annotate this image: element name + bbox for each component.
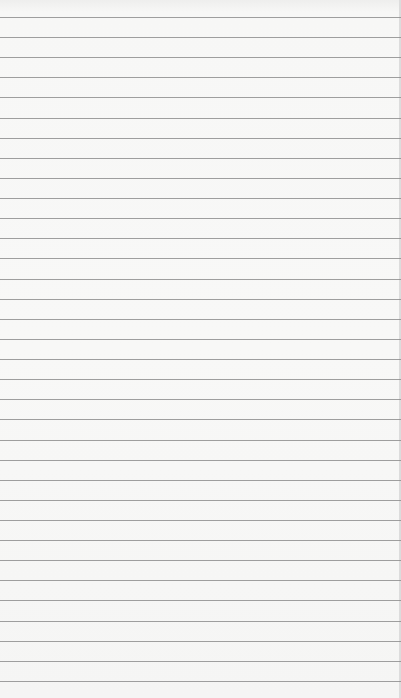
- ruled-line: [0, 460, 401, 461]
- ruled-line: [0, 540, 401, 541]
- ruled-line: [0, 319, 401, 320]
- ruled-line: [0, 641, 401, 642]
- ruled-line: [0, 198, 401, 199]
- ruled-line: [0, 580, 401, 581]
- ruled-line: [0, 681, 401, 682]
- ruled-line: [0, 17, 401, 18]
- ruled-line: [0, 440, 401, 441]
- ruled-line: [0, 279, 401, 280]
- lined-paper: [0, 0, 401, 698]
- ruled-line: [0, 560, 401, 561]
- ruled-line: [0, 661, 401, 662]
- ruled-line: [0, 118, 401, 119]
- ruled-line: [0, 520, 401, 521]
- ruled-line: [0, 238, 401, 239]
- ruled-line: [0, 158, 401, 159]
- ruled-line: [0, 178, 401, 179]
- ruled-line: [0, 218, 401, 219]
- ruled-line: [0, 77, 401, 78]
- ruled-line: [0, 258, 401, 259]
- ruled-line: [0, 600, 401, 601]
- ruled-line: [0, 138, 401, 139]
- ruled-line: [0, 299, 401, 300]
- ruled-line: [0, 621, 401, 622]
- ruled-line: [0, 37, 401, 38]
- ruled-line: [0, 480, 401, 481]
- ruled-line: [0, 359, 401, 360]
- ruled-line: [0, 97, 401, 98]
- ruled-line: [0, 339, 401, 340]
- ruled-line: [0, 399, 401, 400]
- ruled-line: [0, 379, 401, 380]
- ruled-line: [0, 57, 401, 58]
- ruled-line: [0, 419, 401, 420]
- ruled-line: [0, 500, 401, 501]
